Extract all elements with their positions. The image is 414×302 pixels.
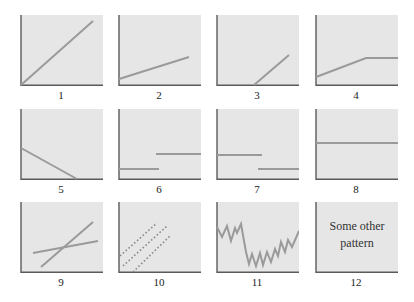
note-line-2: pattern — [316, 235, 398, 252]
chart-7 — [215, 107, 299, 180]
panel-label: 12 — [314, 276, 398, 288]
chart-3 — [215, 13, 299, 86]
chart-10 — [117, 200, 201, 273]
chart-6 — [117, 107, 201, 180]
chart-11 — [215, 200, 299, 273]
panel-label: 3 — [215, 89, 299, 101]
chart-4 — [314, 13, 398, 86]
panel-label: 1 — [19, 89, 103, 101]
panel-label: 11 — [215, 276, 299, 288]
panel-label: 2 — [117, 89, 201, 101]
pattern-grid: 1 2 3 — [0, 0, 414, 302]
chart-8 — [314, 107, 398, 180]
panel-label: 10 — [117, 276, 201, 288]
panel-label: 6 — [117, 183, 201, 195]
other-pattern-note: Some other pattern — [316, 218, 398, 252]
chart-1 — [19, 13, 103, 86]
chart-9 — [19, 200, 103, 273]
panel-label: 7 — [215, 183, 299, 195]
chart-5 — [19, 107, 103, 180]
panel-label: 5 — [19, 183, 103, 195]
panel-label: 8 — [314, 183, 398, 195]
chart-2 — [117, 13, 201, 86]
panel-label: 9 — [19, 276, 103, 288]
note-line-1: Some other — [316, 218, 398, 235]
panel-label: 4 — [314, 89, 398, 101]
